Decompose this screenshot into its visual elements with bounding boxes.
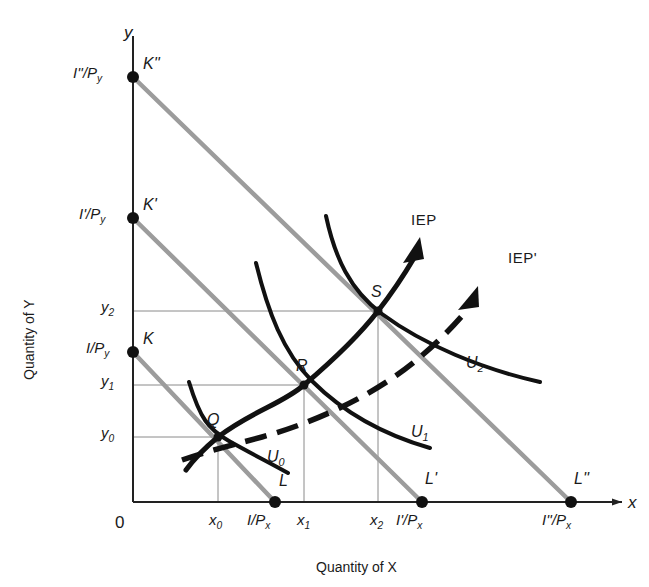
point-label-Lp: L'	[425, 471, 437, 487]
y-tick-Ip-over-Py: I'/Py	[79, 206, 105, 225]
marker-Q	[214, 433, 223, 442]
y-tick-Ipp-over-Py-text: I''/P	[73, 64, 97, 81]
x-tick-x1: x1	[297, 512, 310, 531]
marker-Lpp	[565, 496, 577, 508]
indifference-curve-U2	[326, 216, 540, 382]
y-tick-Ipp-over-Py-sub: y	[97, 73, 102, 84]
x-tick-x0: x0	[209, 512, 222, 531]
curve-label-U0-sub: 0	[279, 456, 285, 468]
curve-label-U2-sub: 2	[478, 362, 484, 374]
indifference-curve-U1	[256, 263, 430, 448]
y-axis-symbol: y	[124, 24, 133, 41]
marker-K	[127, 346, 139, 358]
x-axis-arrow	[612, 499, 622, 506]
point-label-L: L	[279, 473, 288, 489]
y-tick-y2-sub: 2	[109, 307, 115, 318]
x-tick-I-over-Px-text: I/P	[247, 511, 265, 528]
origin-label: 0	[115, 514, 124, 531]
x-tick-x0-text: x	[209, 511, 217, 528]
budget-lines	[133, 77, 571, 502]
y-tick-I-over-Py-sub: y	[104, 348, 109, 359]
x-tick-x1-text: x	[297, 511, 305, 528]
indifference-curves	[189, 216, 540, 473]
x-tick-Ip-over-Px-text: I'/P	[396, 511, 417, 528]
y-tick-y1-text: y	[101, 372, 109, 389]
x-tick-x2: x2	[370, 512, 383, 531]
y-tick-y0-text: y	[101, 424, 109, 441]
point-label-R: R	[296, 358, 308, 374]
iep-arrowhead	[403, 237, 424, 263]
y-tick-y0: y0	[101, 425, 114, 444]
x-tick-x2-sub: 2	[378, 520, 384, 531]
point-label-Kp: K'	[143, 197, 157, 213]
x-tick-x1-sub: 1	[305, 520, 311, 531]
marker-S	[374, 307, 383, 316]
chart-figure: y x 0 Quantity of Y Quantity of X I''/Py…	[0, 0, 649, 587]
iep-prime-arrowhead	[458, 286, 479, 310]
chart-canvas	[0, 0, 649, 587]
y-tick-Ipp-over-Py: I''/Py	[73, 65, 102, 84]
y-tick-y2: y2	[101, 299, 114, 318]
curve-label-U1: U1	[411, 424, 429, 443]
curve-label-U2: U2	[466, 355, 484, 374]
curve-label-U0-text: U	[267, 448, 279, 465]
x-tick-x2-text: x	[370, 511, 378, 528]
y-tick-y0-sub: 0	[109, 433, 115, 444]
x-tick-Ip-over-Px-sub: x	[417, 520, 422, 531]
path-label-iep: IEP	[411, 212, 437, 227]
y-axis-title: Quantity of Y	[22, 299, 36, 380]
y-tick-I-over-Py: I/Py	[86, 340, 109, 359]
curve-label-U1-sub: 1	[423, 431, 429, 443]
budget-line-KL	[133, 352, 275, 502]
point-label-S: S	[371, 284, 382, 300]
x-tick-I-over-Px: I/Px	[247, 512, 270, 531]
y-tick-y1-sub: 1	[109, 381, 115, 392]
x-tick-I-over-Px-sub: x	[265, 520, 270, 531]
y-tick-y2-text: y	[101, 298, 109, 315]
x-tick-Ip-over-Px: I'/Px	[396, 512, 422, 531]
marker-Kp	[127, 212, 139, 224]
x-tick-Ipp-over-Px-text: I''/P	[542, 511, 566, 528]
x-tick-x0-sub: 0	[217, 520, 223, 531]
budget-line-KppLpp	[133, 77, 571, 502]
y-tick-y1: y1	[101, 373, 114, 392]
marker-R	[300, 381, 309, 390]
curve-label-U2-text: U	[466, 354, 478, 371]
point-label-K: K	[143, 331, 154, 347]
curve-label-U0: U0	[267, 449, 285, 468]
x-axis-symbol: x	[628, 494, 637, 511]
y-tick-Ip-over-Py-text: I'/P	[79, 205, 100, 222]
x-axis-title: Quantity of X	[316, 560, 397, 574]
x-tick-Ipp-over-Px-sub: x	[566, 520, 571, 531]
y-tick-Ip-over-Py-sub: y	[100, 214, 105, 225]
marker-Kpp	[127, 71, 139, 83]
curve-label-U1-text: U	[411, 423, 423, 440]
point-label-Q: Q	[207, 412, 219, 428]
marker-L	[269, 496, 281, 508]
marker-Lp	[416, 496, 428, 508]
point-label-Lpp: L''	[574, 471, 589, 487]
point-label-Kpp: K''	[143, 56, 160, 72]
y-tick-I-over-Py-text: I/P	[86, 339, 104, 356]
x-tick-Ipp-over-Px: I''/Px	[542, 512, 571, 531]
path-label-iep-prime: IEP'	[508, 250, 537, 265]
